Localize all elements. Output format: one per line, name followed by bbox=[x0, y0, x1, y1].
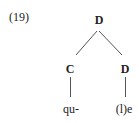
leaf-qu: qu- bbox=[56, 102, 86, 116]
root-node-d: D bbox=[84, 13, 114, 27]
edge-root-to-c bbox=[76, 31, 97, 55]
node-c: C bbox=[55, 62, 85, 76]
leaf-le: (l)e bbox=[109, 102, 139, 116]
node-d: D bbox=[110, 62, 139, 76]
edge-root-to-d bbox=[99, 31, 122, 55]
